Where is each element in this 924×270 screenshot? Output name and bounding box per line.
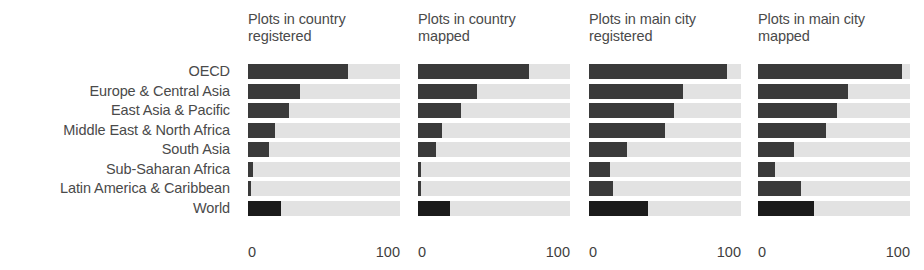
- bar-fill: [248, 181, 251, 196]
- bar-track: [758, 162, 910, 177]
- bar-row: [589, 82, 741, 102]
- bar-fill: [248, 103, 289, 118]
- bar-fill: [418, 64, 529, 79]
- bar-track: [248, 142, 400, 157]
- panel-title-line2: registered: [248, 28, 408, 45]
- category-label: Middle East & North Africa: [0, 121, 238, 141]
- bar-row: [758, 121, 910, 141]
- category-axis-labels: OECDEurope & Central AsiaEast Asia & Pac…: [0, 62, 238, 218]
- category-label: Europe & Central Asia: [0, 82, 238, 102]
- bar-track: [248, 181, 400, 196]
- bar-track: [248, 162, 400, 177]
- bar-row: [758, 62, 910, 82]
- bar-fill: [589, 84, 683, 99]
- bar-fill: [248, 84, 300, 99]
- panel-title-line1: Plots in country: [248, 11, 408, 28]
- bar-fill: [758, 142, 794, 157]
- bar-row: [418, 179, 570, 199]
- axis-tick-max: 100: [376, 243, 400, 261]
- bar-row: [418, 140, 570, 160]
- bar-row: [758, 140, 910, 160]
- bar-fill: [758, 64, 902, 79]
- bar-track: [589, 162, 741, 177]
- bar-row: [248, 62, 400, 82]
- panel-bars: [248, 62, 400, 218]
- panel-title: Plots in country registered: [248, 11, 408, 45]
- bar-row: [589, 140, 741, 160]
- bar-row: [589, 179, 741, 199]
- bar-fill: [589, 162, 610, 177]
- bar-row: [248, 160, 400, 180]
- panel-bars: [418, 62, 570, 218]
- bar-row: [758, 199, 910, 219]
- panel-title-line1: Plots in main city: [758, 11, 918, 28]
- panel-title-line1: Plots in main city: [589, 11, 749, 28]
- bar-fill: [589, 201, 648, 216]
- axis-tick-min: 0: [248, 243, 256, 261]
- bar-fill: [418, 103, 461, 118]
- bar-fill: [589, 181, 613, 196]
- bar-row: [418, 199, 570, 219]
- bar-fill: [248, 142, 269, 157]
- bar-fill: [418, 142, 436, 157]
- bar-fill: [758, 181, 801, 196]
- bar-fill: [248, 162, 253, 177]
- panel-title-line2: mapped: [418, 28, 578, 45]
- axis-tick-min: 0: [418, 243, 426, 261]
- bar-fill: [758, 162, 775, 177]
- bar-row: [758, 160, 910, 180]
- panel-x-axis: 0 100: [758, 243, 910, 263]
- bar-row: [758, 82, 910, 102]
- bar-row: [248, 82, 400, 102]
- bar-fill: [589, 123, 665, 138]
- axis-tick-min: 0: [758, 243, 766, 261]
- panel-bars: [589, 62, 741, 218]
- bar-row: [589, 160, 741, 180]
- bar-row: [418, 121, 570, 141]
- bar-row: [248, 121, 400, 141]
- bar-track: [418, 142, 570, 157]
- panel-title: Plots in country mapped: [418, 11, 578, 45]
- category-label: OECD: [0, 62, 238, 82]
- category-label: Latin America & Caribbean: [0, 179, 238, 199]
- bar-row: [418, 101, 570, 121]
- bar-fill: [418, 123, 442, 138]
- bar-fill: [589, 103, 674, 118]
- bar-row: [758, 101, 910, 121]
- bar-fill: [248, 64, 348, 79]
- bar-fill: [758, 123, 826, 138]
- bar-row: [248, 199, 400, 219]
- bar-row: [589, 121, 741, 141]
- bar-fill: [248, 123, 275, 138]
- panel-title-line2: registered: [589, 28, 749, 45]
- panel-title: Plots in main city registered: [589, 11, 749, 45]
- bar-row: [589, 62, 741, 82]
- bar-row: [248, 140, 400, 160]
- bar-row: [418, 160, 570, 180]
- axis-tick-max: 100: [886, 243, 910, 261]
- grouped-bar-chart: OECDEurope & Central AsiaEast Asia & Pac…: [0, 0, 924, 270]
- category-label: East Asia & Pacific: [0, 101, 238, 121]
- axis-tick-min: 0: [589, 243, 597, 261]
- bar-row: [589, 199, 741, 219]
- bar-row: [418, 62, 570, 82]
- bar-fill: [418, 84, 477, 99]
- panel-x-axis: 0 100: [589, 243, 741, 263]
- category-label: South Asia: [0, 140, 238, 160]
- bar-fill: [589, 142, 627, 157]
- bar-track: [418, 162, 570, 177]
- bar-row: [589, 101, 741, 121]
- panel-x-axis: 0 100: [248, 243, 400, 263]
- bar-track: [418, 181, 570, 196]
- bar-fill: [589, 64, 727, 79]
- bar-fill: [758, 84, 848, 99]
- bar-row: [758, 179, 910, 199]
- bar-fill: [248, 201, 281, 216]
- panel-x-axis: 0 100: [418, 243, 570, 263]
- axis-tick-max: 100: [717, 243, 741, 261]
- bar-fill: [418, 181, 421, 196]
- category-label: World: [0, 199, 238, 219]
- panel-title-line1: Plots in country: [418, 11, 578, 28]
- bar-fill: [418, 162, 421, 177]
- panel-title: Plots in main city mapped: [758, 11, 918, 45]
